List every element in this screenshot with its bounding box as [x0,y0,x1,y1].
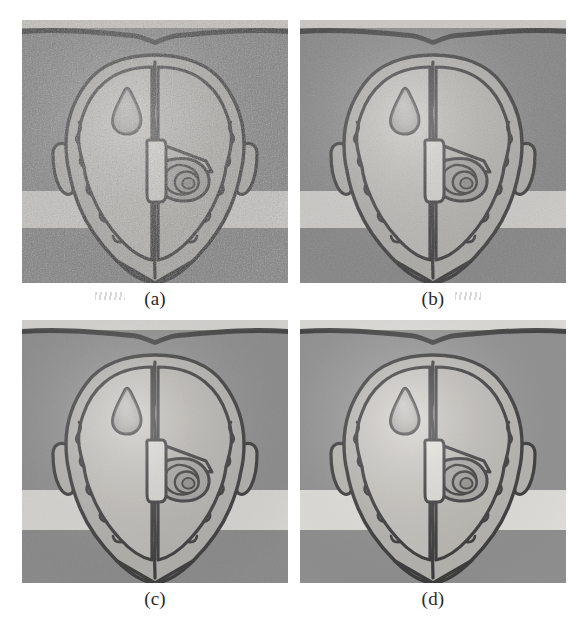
figure-root: (a) [0,0,588,632]
panel-d-image [300,320,566,583]
panel-c-caption: (c) [22,588,288,610]
panel-c: (c) [22,320,288,614]
panel-b-image [300,20,566,283]
panel-a-caption: (a) [22,288,288,310]
panel-d: (d) [300,320,566,614]
panel-a: (a) [22,20,288,314]
panel-b: (b) [300,20,566,314]
panel-c-image [22,320,288,583]
panel-a-image [22,20,288,283]
panel-d-caption: (d) [300,588,566,610]
panel-b-caption: (b) [300,288,566,310]
